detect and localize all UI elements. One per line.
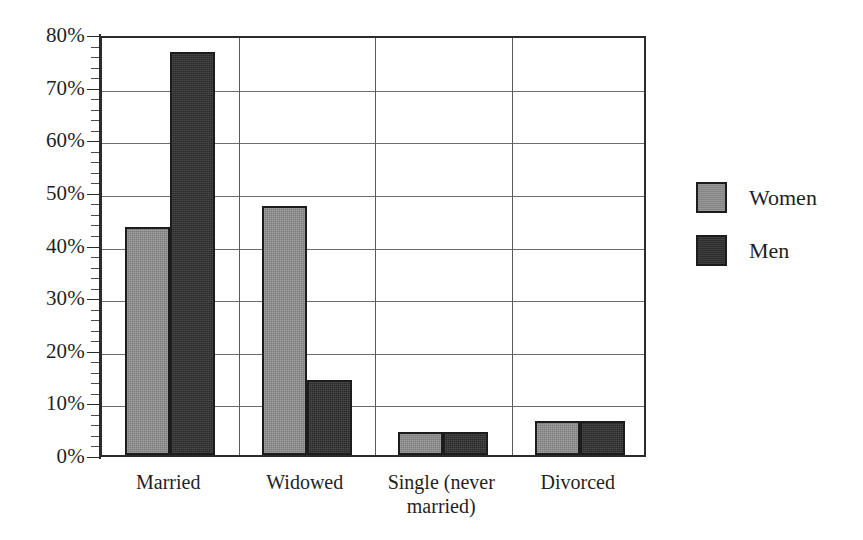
- y-axis-major-tick: [87, 194, 100, 195]
- y-axis-minor-tick: [91, 341, 99, 342]
- y-axis-minor-tick: [91, 120, 99, 121]
- y-axis-minor-tick: [91, 68, 99, 69]
- bar-women-married: [125, 227, 170, 455]
- bar-men-widowed: [307, 380, 352, 455]
- x-axis-category-label-line: Divorced: [483, 470, 673, 494]
- y-axis-minor-tick: [91, 383, 99, 384]
- bar-women-divorced: [535, 421, 580, 455]
- legend-label: Men: [749, 240, 789, 262]
- y-axis-minor-tick: [91, 320, 99, 321]
- y-axis-minor-tick: [91, 57, 99, 58]
- y-axis-minor-tick: [91, 257, 99, 258]
- y-axis-major-tick: [87, 404, 100, 405]
- y-axis-major-tick: [87, 89, 100, 90]
- y-axis-minor-tick: [91, 152, 99, 153]
- y-axis-minor-tick: [91, 446, 99, 447]
- y-axis-major-tick: [87, 247, 100, 248]
- y-axis-minor-tick: [91, 47, 99, 48]
- y-axis-minor-tick: [91, 78, 99, 79]
- y-axis-minor-tick: [91, 204, 99, 205]
- y-axis-tick-label: 60%: [3, 130, 85, 151]
- category-divider: [375, 38, 376, 455]
- y-axis-minor-tick: [91, 183, 99, 184]
- y-axis-tick-label: 10%: [3, 393, 85, 414]
- category-divider: [239, 38, 240, 455]
- women-swatch: [696, 182, 727, 213]
- y-axis-minor-tick: [91, 131, 99, 132]
- y-axis-tick-label: 0%: [3, 446, 85, 467]
- y-axis-minor-tick: [91, 99, 99, 100]
- y-axis-minor-tick: [91, 362, 99, 363]
- y-axis-tick-label: 80%: [3, 25, 85, 46]
- men-swatch: [696, 235, 727, 266]
- legend-item-men: Men: [696, 235, 817, 266]
- y-axis-labels: 80%70%60%50%40%30%20%10%0%: [0, 36, 85, 457]
- y-axis-minor-tick: [91, 215, 99, 216]
- y-axis-tick-label: 40%: [3, 236, 85, 257]
- y-axis-tick-label: 30%: [3, 288, 85, 309]
- legend-item-women: Women: [696, 182, 817, 213]
- y-axis-minor-tick: [91, 373, 99, 374]
- y-axis-minor-tick: [91, 310, 99, 311]
- y-axis-major-tick: [87, 141, 100, 142]
- y-axis-minor-tick: [91, 110, 99, 111]
- y-axis-tick-label: 20%: [3, 341, 85, 362]
- x-axis-category-label: Divorced: [483, 470, 673, 494]
- y-axis-major-tick: [87, 352, 100, 353]
- y-axis-minor-tick: [91, 436, 99, 437]
- plot-area: [100, 36, 646, 457]
- bar-men-married: [170, 52, 215, 455]
- y-axis-minor-tick: [91, 415, 99, 416]
- y-axis-minor-tick: [91, 162, 99, 163]
- y-axis-minor-tick: [91, 173, 99, 174]
- y-axis-minor-tick: [91, 394, 99, 395]
- y-axis-minor-tick: [91, 225, 99, 226]
- y-axis-minor-tick: [91, 236, 99, 237]
- y-axis-minor-tick: [91, 278, 99, 279]
- y-axis-minor-tick: [91, 268, 99, 269]
- bar-chart: 80%70%60%50%40%30%20%10%0% MarriedWidowe…: [0, 0, 863, 540]
- bar-men-single-never-married: [443, 432, 488, 455]
- y-axis-tick-label: 70%: [3, 78, 85, 99]
- y-axis-major-tick: [87, 457, 100, 458]
- legend: WomenMen: [696, 182, 817, 288]
- y-axis-major-tick: [87, 36, 100, 37]
- y-axis-major-tick: [87, 299, 100, 300]
- legend-label: Women: [749, 187, 817, 209]
- y-axis-minor-tick: [91, 289, 99, 290]
- category-divider: [512, 38, 513, 455]
- bar-women-widowed: [262, 206, 307, 455]
- bar-women-single-never-married: [398, 432, 443, 455]
- y-axis-minor-tick: [91, 331, 99, 332]
- bar-men-divorced: [580, 421, 625, 455]
- y-axis-tick-label: 50%: [3, 183, 85, 204]
- y-axis-minor-tick: [91, 425, 99, 426]
- x-axis-category-label-line: married): [346, 494, 536, 518]
